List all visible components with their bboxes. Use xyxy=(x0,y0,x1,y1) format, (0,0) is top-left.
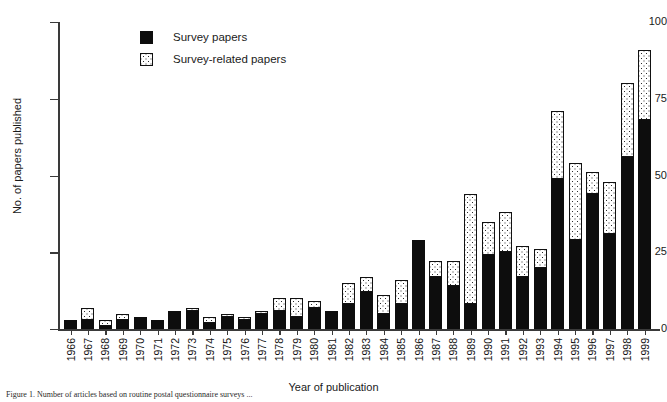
x-axis-tick-label: 1990 xyxy=(482,338,495,361)
bar-segment-survey[interactable] xyxy=(516,277,529,329)
bar-group[interactable] xyxy=(273,298,286,329)
bar-segment-survey-related[interactable] xyxy=(586,172,599,193)
bar-segment-survey-related[interactable] xyxy=(621,83,634,157)
bar-segment-survey-related[interactable] xyxy=(464,194,477,305)
bar-segment-survey[interactable] xyxy=(360,292,373,329)
bar-segment-survey[interactable] xyxy=(325,311,338,329)
bar-segment-survey-related[interactable] xyxy=(638,50,651,121)
bar-group[interactable] xyxy=(290,298,303,329)
bar-group[interactable] xyxy=(168,311,181,329)
x-axis-tick xyxy=(401,331,402,335)
bar-group[interactable] xyxy=(638,50,651,329)
bar-group[interactable] xyxy=(99,320,112,329)
bar-group[interactable] xyxy=(621,83,634,329)
bar-segment-survey[interactable] xyxy=(551,179,564,329)
bar-group[interactable] xyxy=(412,240,425,329)
bar-segment-survey[interactable] xyxy=(290,317,303,329)
bar-group[interactable] xyxy=(64,320,77,329)
bar-segment-survey-related[interactable] xyxy=(603,182,616,234)
bar-segment-survey[interactable] xyxy=(603,234,616,329)
bar-segment-survey-related[interactable] xyxy=(499,212,512,252)
bar-group[interactable] xyxy=(586,172,599,329)
bar-segment-survey[interactable] xyxy=(534,268,547,329)
bar-group[interactable] xyxy=(325,311,338,329)
bar-group[interactable] xyxy=(464,194,477,329)
bar-segment-survey[interactable] xyxy=(638,120,651,329)
bar-segment-survey[interactable] xyxy=(308,308,321,329)
bar-segment-survey[interactable] xyxy=(429,277,442,329)
bar-segment-survey[interactable] xyxy=(203,323,216,329)
bar-group[interactable] xyxy=(308,301,321,329)
bar-segment-survey-related[interactable] xyxy=(534,249,547,267)
bar-segment-survey-related[interactable] xyxy=(81,308,94,320)
bar-segment-survey[interactable] xyxy=(186,311,199,329)
bar-segment-survey[interactable] xyxy=(116,320,129,329)
x-axis-tick xyxy=(540,331,541,335)
bar-group[interactable] xyxy=(516,246,529,329)
x-axis-tick xyxy=(505,331,506,335)
bar-segment-survey[interactable] xyxy=(586,194,599,329)
bar-segment-survey[interactable] xyxy=(151,320,164,329)
bar-group[interactable] xyxy=(395,280,408,329)
bar-segment-survey[interactable] xyxy=(81,320,94,329)
bar-segment-survey[interactable] xyxy=(99,326,112,329)
bar-segment-survey[interactable] xyxy=(412,240,425,329)
bar-segment-survey[interactable] xyxy=(238,320,251,329)
bar-segment-survey-related[interactable] xyxy=(516,246,529,277)
bar-group[interactable] xyxy=(447,261,460,329)
bar-group[interactable] xyxy=(255,311,268,329)
bar-segment-survey[interactable] xyxy=(447,286,460,329)
bar-group[interactable] xyxy=(482,222,495,329)
bar-group[interactable] xyxy=(603,182,616,329)
bar-segment-survey[interactable] xyxy=(482,255,495,329)
bar-segment-survey[interactable] xyxy=(569,240,582,329)
bar-group[interactable] xyxy=(569,163,582,329)
bar-segment-survey[interactable] xyxy=(255,314,268,329)
bar-segment-survey[interactable] xyxy=(395,304,408,329)
bar-segment-survey[interactable] xyxy=(221,317,234,329)
x-axis-tick xyxy=(314,331,315,335)
bar-group[interactable] xyxy=(151,320,164,329)
bar-segment-survey-related[interactable] xyxy=(290,298,303,316)
bar-segment-survey-related[interactable] xyxy=(569,163,582,240)
bar-group[interactable] xyxy=(534,249,547,329)
bar-segment-survey-related[interactable] xyxy=(273,298,286,310)
bar-group[interactable] xyxy=(221,314,234,329)
bar-segment-survey[interactable] xyxy=(168,311,181,329)
bar-group[interactable] xyxy=(116,314,129,329)
bar-segment-survey-related[interactable] xyxy=(360,277,373,292)
chart-legend: Survey papers Survey-related papers xyxy=(140,26,286,70)
bar-segment-survey-related[interactable] xyxy=(482,222,495,256)
bar-segment-survey[interactable] xyxy=(134,317,147,329)
bar-segment-survey[interactable] xyxy=(464,304,477,329)
bar-group[interactable] xyxy=(499,212,512,329)
bar-group[interactable] xyxy=(238,317,251,329)
bar-segment-survey-related[interactable] xyxy=(447,261,460,286)
bar-segment-survey-related[interactable] xyxy=(342,283,355,304)
bar-segment-survey-related[interactable] xyxy=(377,295,390,313)
bar-segment-survey[interactable] xyxy=(377,314,390,329)
bar-group[interactable] xyxy=(81,308,94,329)
bar-segment-survey[interactable] xyxy=(499,252,512,329)
bar-group[interactable] xyxy=(203,317,216,329)
bar-segment-survey[interactable] xyxy=(273,311,286,329)
bar-group[interactable] xyxy=(377,295,390,329)
bar-segment-survey[interactable] xyxy=(64,320,77,329)
bar-segment-survey-related[interactable] xyxy=(429,261,442,276)
bar-segment-survey[interactable] xyxy=(342,304,355,329)
x-axis-tick xyxy=(419,331,420,335)
bar-segment-survey-related[interactable] xyxy=(395,280,408,305)
bar-group[interactable] xyxy=(551,111,564,329)
x-axis-tick xyxy=(610,331,611,335)
x-axis-tick-label: 1968 xyxy=(99,338,112,361)
bar-group[interactable] xyxy=(360,277,373,329)
bar-segment-survey[interactable] xyxy=(621,157,634,329)
bar-group[interactable] xyxy=(342,283,355,329)
bar-group[interactable] xyxy=(134,317,147,329)
y-axis-title: No. of papers published xyxy=(11,31,23,281)
x-axis-tick-label: 1977 xyxy=(256,338,269,361)
x-axis-tick-label: 1997 xyxy=(604,338,617,361)
bar-segment-survey-related[interactable] xyxy=(551,111,564,179)
bar-group[interactable] xyxy=(429,261,442,329)
bar-group[interactable] xyxy=(186,308,199,329)
